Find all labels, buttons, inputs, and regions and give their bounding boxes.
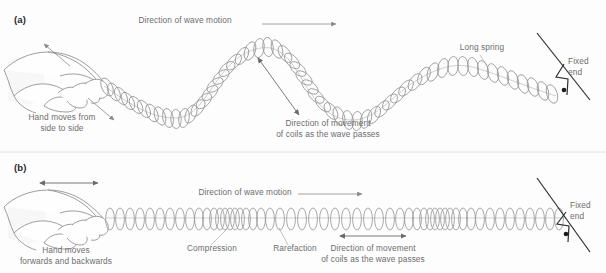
hand-label-b: Hand moves forwards and backwards	[2, 245, 130, 267]
hand-forwards-backwards-icon	[4, 190, 108, 250]
compression-label: Compression	[176, 243, 248, 254]
wave-motion-label-b: Direction of wave motion	[185, 187, 305, 198]
coil-movement-label-b: Direction of movement of coils as the wa…	[307, 243, 439, 265]
panel-b-graphics	[0, 0, 606, 273]
longitudinal-spring-icon	[106, 208, 566, 230]
wave-diagram-figure: (a)	[0, 0, 606, 273]
fixed-end-label-b: Fixed end	[570, 200, 606, 222]
